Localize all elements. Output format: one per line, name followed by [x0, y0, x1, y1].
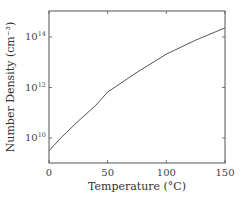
data-series: [49, 28, 225, 151]
chart: 050100150 101010121014 Temperature (°C) …: [0, 0, 246, 203]
x-axis-label: Temperature (°C): [88, 180, 186, 193]
series-line: [49, 28, 225, 151]
x-tick-label: 50: [101, 167, 114, 178]
x-tick-label: 0: [46, 167, 52, 178]
x-tick-label: 150: [215, 167, 234, 178]
y-tick-label: 1010: [25, 131, 46, 143]
y-tick-label: 1014: [25, 30, 46, 42]
plot-frame: [49, 11, 225, 163]
y-axis-label: Number Density (cm⁻³): [4, 22, 17, 153]
y-axis-ticks: 101010121014: [25, 30, 225, 143]
y-tick-label: 1012: [25, 81, 46, 93]
x-tick-label: 100: [157, 167, 176, 178]
